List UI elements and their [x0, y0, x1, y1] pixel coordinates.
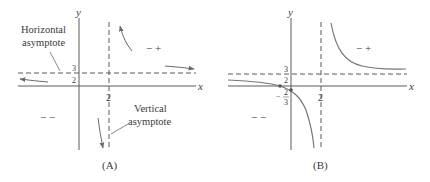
diagram-canvas: x y 3 2 2 Horizontal asymptote Vertical … — [0, 0, 430, 182]
panel-a: x y 3 2 2 Horizontal asymptote Vertical … — [18, 6, 203, 172]
h-asymptote-numerator: 3 — [72, 64, 76, 73]
sign-upper-right: − + — [356, 42, 371, 54]
sign-upper-right: − + — [146, 42, 161, 54]
v-asymptote-tick-label: 2 — [106, 92, 111, 103]
sign-lower-left: − − — [251, 111, 266, 123]
x-axis-label: x — [408, 80, 414, 92]
y-axis-label: y — [75, 6, 81, 18]
panel-b: x y 3 2 − 2 3 2 − + − − (B) — [228, 6, 414, 172]
sign-lower-left: − − — [40, 111, 55, 123]
caption-b: (B) — [313, 159, 328, 172]
x-axis-label: x — [197, 80, 203, 92]
horizontal-annotation-line1: Horizontal — [21, 24, 66, 35]
curve-left-branch — [228, 80, 314, 148]
arrow-left-to-asymptote — [20, 79, 48, 82]
horizontal-annotation-leader — [50, 52, 60, 71]
horizontal-annotation-line2: asymptote — [22, 37, 65, 48]
vertical-annotation-line1: Vertical — [134, 103, 167, 114]
arrow-right-to-asymptote — [165, 66, 194, 69]
x-intercept-point — [278, 84, 282, 88]
vertical-annotation-line2: asymptote — [128, 116, 171, 127]
y-intercept-denominator: 3 — [284, 98, 288, 107]
h-asymptote-numerator: 3 — [284, 65, 288, 74]
y-intercept-sign: − — [276, 92, 281, 101]
y-axis-label: y — [287, 6, 293, 18]
h-asymptote-denominator: 2 — [284, 76, 288, 85]
arrow-up-near-asymptote — [120, 26, 132, 51]
h-asymptote-denominator: 2 — [72, 76, 76, 85]
caption-a: (A) — [102, 159, 118, 172]
y-intercept-point — [289, 88, 293, 92]
v-asymptote-tick-label: 2 — [318, 92, 323, 103]
arrow-down-near-asymptote — [98, 118, 103, 148]
vertical-annotation-leader — [111, 124, 128, 134]
